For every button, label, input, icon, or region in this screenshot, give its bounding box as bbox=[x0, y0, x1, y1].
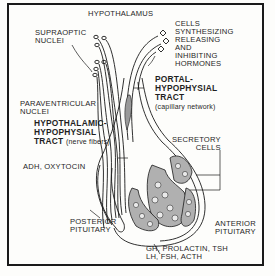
label-hypothalamic-hypophysial-tract: HYPOTHALAMIC- HYPOPHYSIAL TRACT (nerve f… bbox=[34, 119, 110, 146]
label-portal-hypophysial-tract: PORTAL- HYPOPHYSIAL TRACT (capillary net… bbox=[155, 75, 217, 111]
capillary-network-icon bbox=[125, 95, 132, 130]
label-cells-synthesizing: CELLS SYNTHESIZING RELEASING AND INHIBIT… bbox=[175, 20, 234, 68]
secretory-cells-icon bbox=[129, 156, 196, 231]
label-hypothalamus: HYPOTHALAMUS bbox=[88, 10, 153, 18]
label-anterior-pituitary: ANTERIOR PITUITARY bbox=[215, 220, 256, 236]
label-supraoptic-nuclei: SUPRAOPTIC NUCLEI bbox=[35, 29, 86, 45]
label-posterior-pituitary: POSTERIOR PITUITARY bbox=[70, 218, 117, 234]
label-paraventricular-nuclei: PARAVENTRICULAR NUCLEI bbox=[20, 100, 96, 116]
label-secretory-cells: SECRETORY CELLS bbox=[172, 136, 221, 152]
label-anterior-hormones: GH, PROLACTIN, TSH LH, FSH, ACTH bbox=[146, 245, 228, 261]
releasing-cells-icon bbox=[158, 30, 169, 52]
label-adh-oxytocin: ADH, OXYTOCIN bbox=[23, 163, 85, 171]
